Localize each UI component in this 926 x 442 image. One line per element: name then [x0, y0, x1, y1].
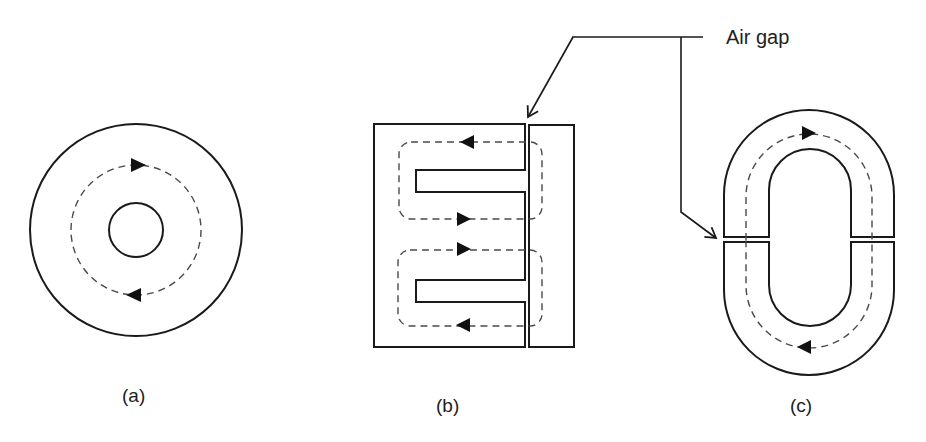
- flux-arrow-top-icon: [131, 158, 146, 172]
- magnetic-cores-diagram: Air gap (a) (b): [0, 0, 926, 442]
- flux-arrow-b1-icon: [460, 135, 474, 149]
- toroid-inner-edge: [109, 203, 163, 257]
- panel-a-toroid: (a): [30, 124, 242, 406]
- flux-path-b-lower: [398, 250, 542, 326]
- flux-arrow-b4-icon: [456, 318, 470, 332]
- core-lower-half: [724, 242, 894, 375]
- core-upper-half: [724, 110, 894, 237]
- toroid-outer-edge: [30, 124, 242, 336]
- flux-arrow-c-top-icon: [802, 126, 816, 140]
- i-core: [529, 125, 574, 347]
- panel-c-label: (c): [790, 395, 812, 416]
- leader-arrow-to-b: [528, 37, 573, 117]
- flux-arrow-b2-icon: [457, 212, 471, 226]
- e-core: [374, 124, 525, 347]
- flux-arrow-bottom-icon: [126, 288, 141, 302]
- panel-b-ei-core: (b): [374, 124, 574, 416]
- flux-arrow-c-bottom-icon: [797, 340, 811, 354]
- air-gap-callout: Air gap: [528, 26, 789, 238]
- flux-arrow-b3-icon: [457, 242, 471, 256]
- panel-c-racetrack-core: (c): [724, 110, 894, 416]
- flux-path-b-upper: [399, 142, 542, 219]
- air-gap-label: Air gap: [726, 26, 789, 48]
- panel-a-label: (a): [122, 385, 145, 406]
- flux-path-a: [71, 165, 201, 295]
- panel-b-label: (b): [436, 395, 459, 416]
- leader-arrow-to-c: [681, 37, 716, 238]
